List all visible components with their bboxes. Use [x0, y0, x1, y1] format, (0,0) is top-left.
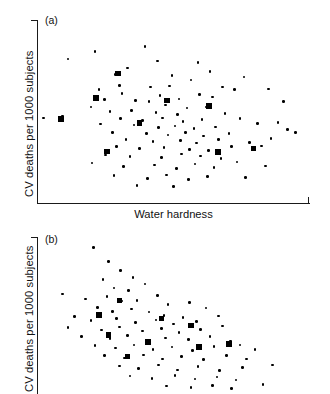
data-point-dot	[195, 320, 198, 323]
data-point-dot	[156, 294, 159, 297]
data-point-dot	[155, 319, 158, 322]
data-point-dot	[164, 104, 167, 107]
data-point-dot	[178, 98, 181, 101]
data-point-dot	[67, 58, 70, 61]
data-point-dot	[267, 88, 270, 91]
data-point-dot	[277, 121, 280, 124]
data-point-dot	[190, 79, 193, 82]
panel-a: CV deaths per 1000 subjects (a) Water ha…	[0, 0, 330, 232]
data-point-dot	[211, 384, 214, 387]
data-point-dot	[209, 70, 212, 73]
panel-b: CV deaths per 1000 subjects (b)	[0, 232, 330, 394]
data-point-dot	[109, 337, 112, 340]
data-point-dot	[109, 110, 112, 113]
data-point-dot	[148, 100, 151, 103]
panel-a-y-axis-top-tick	[31, 20, 37, 21]
data-point-dot	[194, 378, 197, 381]
data-point-dot	[236, 161, 239, 164]
data-point-dot	[161, 358, 164, 361]
data-point-dot	[171, 74, 174, 77]
data-point-dot	[243, 76, 246, 79]
data-point-dot	[127, 289, 130, 292]
data-point-dot	[118, 84, 121, 87]
data-point-dot	[80, 335, 83, 338]
data-point-dot	[156, 60, 159, 63]
data-point-dot	[172, 323, 175, 326]
data-point-dot	[176, 369, 179, 372]
data-point-dot	[184, 131, 187, 134]
data-point-dot	[134, 99, 137, 102]
data-point-dot	[235, 379, 238, 382]
data-point-dot	[129, 155, 132, 158]
data-point-dot	[282, 100, 285, 103]
data-point-dot	[129, 375, 132, 378]
data-point-dot	[146, 177, 149, 180]
data-point-dot	[90, 106, 93, 109]
data-point-dot	[149, 86, 152, 89]
data-point-dot	[172, 185, 175, 188]
data-point-dot	[191, 349, 194, 352]
data-point-dot	[148, 311, 151, 314]
panel-a-plot-area	[38, 21, 309, 202]
data-point-dot	[159, 94, 162, 97]
data-point-dot	[194, 163, 197, 166]
data-point-dot	[92, 246, 95, 249]
data-point-dot	[115, 145, 118, 148]
data-point-dot	[94, 344, 97, 347]
data-point-dot	[224, 112, 227, 115]
data-point-dot	[118, 365, 121, 368]
data-point-dot	[174, 374, 177, 377]
data-point-dot	[199, 155, 202, 158]
data-point-dot	[144, 283, 147, 286]
data-point-dot	[119, 269, 122, 272]
data-point-dot	[202, 135, 205, 138]
data-point-dot	[211, 96, 214, 99]
data-point-dot	[137, 367, 140, 370]
data-point-dot	[213, 345, 216, 348]
data-point-dot	[195, 142, 198, 145]
data-point-dot	[178, 331, 181, 334]
data-point-square	[106, 332, 112, 338]
data-point-dot	[233, 88, 236, 91]
data-point-dot	[121, 92, 124, 95]
data-point-square	[226, 341, 232, 347]
data-point-dot	[141, 330, 144, 333]
panel-b-y-axis-label: CV deaths per 1000 subjects	[23, 246, 35, 392]
data-point-dot	[245, 358, 248, 361]
data-point-dot	[165, 174, 168, 177]
data-point-dot	[188, 301, 191, 304]
data-point-dot	[190, 386, 193, 389]
data-point-square	[96, 312, 102, 318]
data-point-dot	[164, 337, 167, 340]
data-point-dot	[133, 124, 136, 127]
data-point-dot	[118, 326, 121, 329]
data-point-dot	[202, 358, 205, 361]
data-point-dot	[99, 123, 102, 126]
data-point-dot	[230, 387, 233, 390]
data-point-dot	[42, 117, 45, 120]
data-point-dot	[175, 167, 178, 170]
data-point-dot	[113, 174, 116, 177]
data-point-dot	[145, 132, 148, 135]
data-point-square	[215, 149, 221, 155]
data-point-dot	[142, 354, 145, 357]
data-point-dot	[270, 137, 273, 140]
data-point-dot	[254, 348, 257, 351]
data-point-square	[93, 95, 99, 101]
data-point-dot	[176, 113, 179, 116]
data-point-dot	[157, 364, 160, 367]
data-point-dot	[126, 334, 129, 337]
data-point-square	[58, 116, 64, 122]
data-point-dot	[106, 295, 109, 298]
data-point-dot	[115, 317, 118, 320]
data-point-dot	[199, 328, 202, 331]
data-point-square	[206, 103, 212, 109]
data-point-dot	[152, 348, 155, 351]
data-point-dot	[214, 126, 217, 129]
data-point-dot	[207, 149, 210, 152]
data-point-dot	[107, 260, 110, 263]
data-point-square	[137, 120, 143, 126]
data-point-dot	[102, 278, 105, 281]
data-point-dot	[217, 315, 220, 318]
data-point-dot	[167, 303, 170, 306]
